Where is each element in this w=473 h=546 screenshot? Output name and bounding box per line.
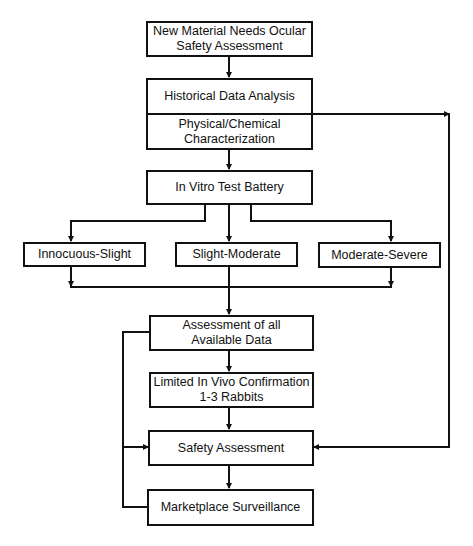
node-moderate-severe: Moderate-Severe: [318, 242, 441, 268]
node-physical-chemical: Physical/ChemicalCharacterization: [146, 113, 313, 150]
node-limited-in-vivo: Limited In Vivo Confirmation1-3 Rabbits: [149, 372, 314, 408]
node-marketplace-surveillance: Marketplace Surveillance: [147, 489, 314, 526]
node-text: Innocuous-Slight: [38, 247, 131, 262]
node-innocuous-slight: Innocuous-Slight: [23, 242, 146, 267]
node-text: Slight-Moderate: [192, 247, 280, 262]
node-text: Safety Assessment: [153, 39, 306, 54]
node-text: Physical/Chemical: [178, 117, 280, 132]
node-text: Characterization: [178, 132, 280, 147]
node-text: Available Data: [183, 333, 281, 348]
node-text: 1-3 Rabbits: [153, 390, 309, 405]
node-text: In Vitro Test Battery: [175, 180, 284, 195]
node-text: Marketplace Surveillance: [161, 500, 301, 515]
node-text: Historical Data Analysis: [164, 89, 295, 104]
node-in-vitro: In Vitro Test Battery: [146, 170, 313, 205]
node-text: New Material Needs Ocular: [153, 24, 306, 39]
node-historical-data: Historical Data Analysis: [146, 78, 313, 115]
node-text: Limited In Vivo Confirmation: [153, 375, 309, 390]
node-safety-assessment: Safety Assessment: [148, 430, 314, 466]
node-slight-moderate: Slight-Moderate: [175, 242, 298, 267]
node-new-material: New Material Needs OcularSafety Assessme…: [146, 21, 313, 57]
node-assessment-all-data: Assessment of allAvailable Data: [149, 315, 314, 351]
node-text: Safety Assessment: [178, 441, 284, 456]
node-text: Moderate-Severe: [331, 248, 428, 263]
node-text: Assessment of all: [183, 318, 281, 333]
